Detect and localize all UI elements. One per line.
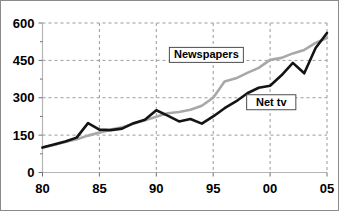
- x-axis-tickmarks: [43, 173, 328, 177]
- y-axis-tick-label: 300: [13, 90, 35, 105]
- x-axis-tick-label: 85: [92, 181, 106, 196]
- chart-figure: 0150300450600 808590950005 NewspapersNet…: [0, 0, 339, 211]
- x-axis-tick-label: 90: [149, 181, 163, 196]
- series-annotation-label: Newspapers: [174, 48, 239, 60]
- x-axis-tick-label: 95: [206, 181, 220, 196]
- series-annotation-label: Net tv: [256, 96, 287, 108]
- line-chart: 0150300450600 808590950005 NewspapersNet…: [1, 1, 338, 210]
- series-annotation: Newspapers: [169, 47, 243, 62]
- y-axis-tick-label: 150: [13, 128, 35, 143]
- y-axis-tick-label: 450: [13, 53, 35, 68]
- y-axis-tick-labels: 0150300450600: [13, 16, 35, 181]
- y-axis-tick-label: 600: [13, 16, 35, 31]
- x-axis-tick-label: 00: [263, 181, 277, 196]
- x-axis-tick-label: 80: [35, 181, 49, 196]
- x-axis-tick-label: 05: [320, 181, 334, 196]
- x-axis-tick-labels: 808590950005: [35, 181, 334, 196]
- series-annotation: Net tv: [247, 95, 296, 110]
- y-axis-tick-label: 0: [27, 165, 34, 180]
